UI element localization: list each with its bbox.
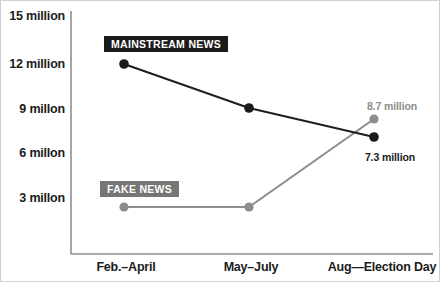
y-tick-label-9: 9 millon — [19, 102, 65, 116]
data-point-mainstream-aug-election — [369, 132, 379, 142]
y-tick-9: 9 millon — [1, 102, 65, 116]
y-tick-label-12: 12 million — [9, 57, 65, 71]
y-tick-6: 6 millon — [1, 146, 65, 160]
y-tick-12: 12 million — [1, 57, 65, 71]
data-point-fake-aug-election — [369, 114, 378, 123]
data-point-fake-feb-april — [119, 202, 128, 211]
x-tick-label-may-july: May–July — [224, 260, 279, 274]
chart-container: 15 million 12 million 9 millon 6 millon … — [0, 0, 440, 282]
y-tick-15: 15 million — [1, 9, 65, 23]
x-tick-label-feb-april: Feb.–April — [96, 260, 155, 274]
y-tick-label-3: 3 millon — [19, 191, 65, 205]
x-tick-label-aug-election-day: Aug—Election Day — [328, 260, 437, 274]
y-tick-label-15: 15 million — [9, 9, 65, 23]
data-label-mainstream-news-value: 7.3 million — [365, 151, 415, 163]
data-point-mainstream-feb-april — [119, 59, 129, 69]
data-point-fake-may-july — [244, 202, 253, 211]
data-point-mainstream-may-july — [244, 103, 254, 113]
legend-badge-fake-news: FAKE NEWS — [100, 181, 179, 197]
y-tick-label-6: 6 millon — [19, 146, 65, 160]
legend-badge-mainstream-news: MAINSTREAM NEWS — [104, 36, 228, 52]
data-label-fake-news-value: 8.7 million — [367, 100, 417, 112]
y-tick-3: 3 millon — [1, 191, 65, 205]
series-line-mainstream-news — [124, 64, 374, 137]
